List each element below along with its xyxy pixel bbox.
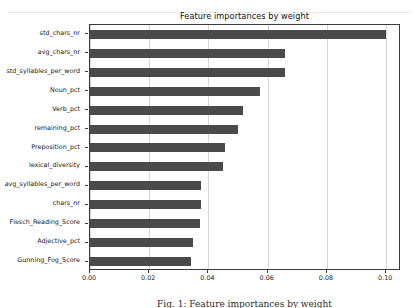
y-axis-tick-label: Adjective_pct [37,232,80,251]
y-axis-tick-mark [85,223,88,224]
bar-row [90,233,193,252]
bar-row [90,252,191,270]
bar-row [90,214,200,233]
bar [90,200,201,209]
y-axis-tick-mark [85,242,88,243]
bar [90,238,193,247]
chart-title: Feature importances by weight [89,11,400,21]
x-axis-tick-mark [89,270,90,273]
bar [90,219,200,228]
bar [90,49,285,58]
y-axis-tick-label: std_chars_nr [40,24,80,43]
x-axis: 0.000.020.040.060.080.10 [89,270,400,284]
bar-row [90,44,285,63]
bar-row [90,101,243,120]
bar [90,181,201,190]
y-axis-tick-label: Preposition_pct [31,138,80,157]
y-axis-tick-mark [85,128,88,129]
bar-row [90,176,201,195]
figure-caption: Fig. 1: Feature importances by weight [89,299,400,308]
bar-series [90,25,399,269]
bar-row [90,157,223,176]
x-axis-tick-label: 0.08 [319,274,333,282]
y-axis-tick-label: avg_chars_nr [38,43,80,62]
bar [90,68,285,77]
x-axis-tick-mark [148,270,149,273]
y-axis-tick-mark [85,71,88,72]
y-axis-tick-label: Noun_pct [50,81,80,100]
x-axis-tick-mark [326,270,327,273]
x-axis-tick-mark [207,270,208,273]
bar [90,162,223,171]
bar-row [90,82,260,101]
bar-row [90,120,238,139]
bar-row [90,25,386,44]
y-axis-tick-mark [85,33,88,34]
x-axis-tick-mark [267,270,268,273]
bar [90,257,191,266]
bar [90,87,260,96]
bar-row [90,139,225,158]
bar [90,125,238,134]
bar [90,143,225,152]
y-axis-tick-mark [85,52,88,53]
x-axis-tick-label: 0.00 [82,274,96,282]
y-axis-tick-mark [85,261,88,262]
x-axis-tick-label: 0.04 [200,274,214,282]
y-axis-tick-label: std_syllables_per_word [7,62,80,81]
y-axis-tick-label: avg_syllables_per_word [5,175,80,194]
y-axis-tick-mark [85,147,88,148]
bar-row [90,63,285,82]
y-axis: std_chars_nravg_chars_nrstd_syllables_pe… [0,24,85,270]
x-axis-tick-label: 0.06 [260,274,274,282]
x-axis-tick-label: 0.02 [141,274,155,282]
y-axis-tick-mark [85,109,88,110]
bar [90,106,243,115]
x-axis-tick-mark [385,270,386,273]
y-axis-tick-mark [85,166,88,167]
bar [90,30,386,39]
plot-area [89,24,400,270]
y-axis-tick-mark [85,185,88,186]
y-axis-tick-label: Flesch_Reading_Score [9,213,80,232]
y-axis-tick-label: remaining_pct [34,119,80,138]
y-axis-tick-mark [85,90,88,91]
y-axis-tick-label: Verb_pct [52,100,80,119]
y-axis-tick-label: lexical_diversity [29,156,80,175]
y-axis-tick-mark [85,204,88,205]
y-axis-tick-label: Gunning_Fog_Score [17,251,80,270]
figure-container: Feature importances by weight std_chars_… [0,0,418,308]
y-axis-tick-label: chars_nr [53,194,80,213]
x-axis-tick-label: 0.10 [378,274,392,282]
bar-row [90,195,201,214]
